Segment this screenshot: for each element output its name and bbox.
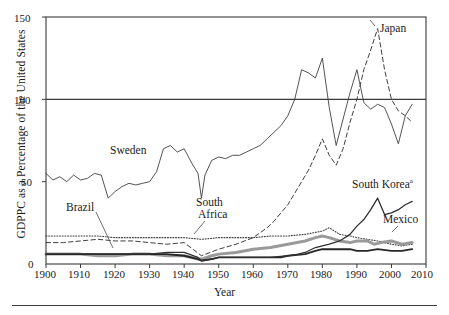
y-tick-50: 50 [21, 176, 32, 188]
x-tick-1990: 1990 [345, 268, 367, 280]
series-line-south-africa [46, 228, 412, 246]
x-tick-1940: 1940 [172, 268, 194, 280]
leader-line-japan [370, 20, 375, 26]
x-tick-1930: 1930 [138, 268, 160, 280]
y-tick-0: 0 [28, 258, 34, 270]
south-korea-text: South Korea [352, 178, 410, 190]
series-label-south-africa-line2: Africa [198, 208, 227, 220]
series-label-sweden: Sweden [110, 144, 146, 156]
x-axis-label: Year [0, 286, 449, 298]
series-label-brazil: Brazil [66, 201, 94, 213]
x-tick-1970: 1970 [276, 268, 298, 280]
x-tick-2000: 2000 [379, 268, 401, 280]
x-tick-1980: 1980 [310, 268, 332, 280]
x-tick-1920: 1920 [103, 268, 125, 280]
x-tick-1960: 1960 [241, 268, 263, 280]
series-label-south-africa-line1: South [196, 196, 223, 208]
chart-figure: GDPPC as a Percentage of the United Stat… [0, 0, 449, 315]
series-line-brazil [46, 249, 412, 261]
x-tick-1950: 1950 [207, 268, 229, 280]
series-label-south-korea: South Koreaa [352, 177, 413, 190]
series-label-mexico: Mexico [383, 213, 418, 225]
footnote-marker: a [410, 177, 413, 185]
x-tick-1900: 1900 [34, 268, 56, 280]
leader-line-south-africa [194, 221, 205, 234]
x-tick-1910: 1910 [68, 268, 90, 280]
y-tick-150: 150 [14, 12, 31, 24]
leader-line-mexico [392, 226, 398, 232]
series-label-japan: Japan [380, 22, 406, 34]
leader-line-brazil [96, 212, 113, 248]
y-axis-label: GDPPC as a Percentage of the United Stat… [15, 9, 27, 259]
x-tick-2010: 2010 [411, 268, 433, 280]
y-tick-100: 100 [14, 94, 31, 106]
bottom-divider-rule [12, 305, 437, 306]
